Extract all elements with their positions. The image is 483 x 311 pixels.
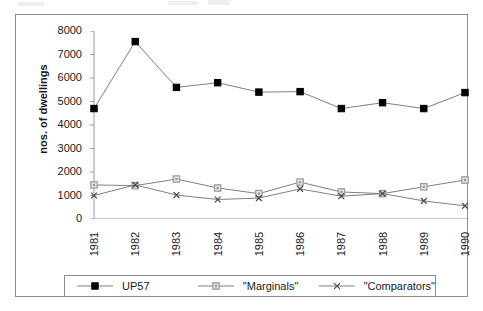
series-3 (91, 182, 468, 209)
legend-swatch-x-icon (317, 280, 357, 292)
x-tick-label: 1982 (129, 222, 141, 266)
data-point-marker-core (175, 178, 177, 180)
series-line (94, 179, 465, 194)
x-tick-label: 1986 (294, 222, 306, 266)
y-tick-label: 7000 (48, 49, 82, 60)
legend-label: UP57 (122, 280, 150, 292)
series-line (94, 42, 465, 109)
legend-entry[interactable]: "Comparators" (307, 280, 435, 292)
y-tick-label: 8000 (48, 25, 82, 36)
figure-frame: nos. of dwellings 8000700060005000400030… (15, 14, 468, 297)
x-tick-label: 1990 (459, 222, 471, 266)
data-point-marker-core (93, 184, 95, 186)
x-tick-label: 1987 (335, 222, 347, 266)
y-tick-label: 6000 (48, 72, 82, 83)
chart-legend: UP57"Marginals""Comparators" (64, 275, 436, 297)
x-tick-label: 1984 (212, 222, 224, 266)
legend-entry[interactable]: "Marginals" (186, 280, 307, 292)
plot-area (86, 31, 471, 219)
scan-artifact (168, 1, 198, 5)
legend-swatch-filled-square-icon (75, 280, 115, 292)
y-tick-label: 0 (48, 213, 82, 224)
y-tick-label: 5000 (48, 96, 82, 107)
y-axis-tick-labels: 800070006000500040003000200010000 (42, 31, 82, 219)
y-tick-label: 1000 (48, 190, 82, 201)
series-1 (91, 38, 468, 111)
data-point-marker-core (464, 179, 466, 181)
scan-artifact (208, 0, 230, 5)
x-tick-label: 1985 (253, 222, 265, 266)
data-point-marker (421, 105, 427, 111)
data-point-marker (214, 80, 220, 86)
data-point-marker-core (258, 193, 260, 195)
x-axis-tick-labels: 1981198219831984198519861987198819891990 (86, 220, 471, 264)
data-point-marker-core (423, 186, 425, 188)
x-tick-label: 1989 (418, 222, 430, 266)
data-point-marker-core (215, 285, 217, 287)
data-point-marker-core (299, 181, 301, 183)
legend-label: "Marginals" (243, 280, 299, 292)
legend-entry[interactable]: UP57 (65, 280, 186, 292)
scan-artifact (18, 2, 44, 6)
data-point-marker (173, 84, 179, 90)
x-tick-label: 1981 (88, 222, 100, 266)
data-point-marker (379, 99, 385, 105)
x-tick-label: 1983 (170, 222, 182, 266)
data-point-marker (297, 88, 303, 94)
data-point-marker (462, 89, 468, 95)
legend-swatch-open-square-icon (196, 280, 236, 292)
line-chart-svg (86, 31, 471, 219)
data-point-marker-core (340, 191, 342, 193)
y-tick-label: 4000 (48, 119, 82, 130)
data-point-marker (92, 283, 98, 289)
y-tick-label: 3000 (48, 143, 82, 154)
data-point-marker (91, 105, 97, 111)
data-point-marker-core (217, 187, 219, 189)
legend-label: "Comparators" (364, 280, 435, 292)
data-point-marker (256, 89, 262, 95)
data-point-marker (338, 105, 344, 111)
data-point-marker (132, 38, 138, 44)
y-tick-label: 2000 (48, 166, 82, 177)
x-tick-label: 1988 (377, 222, 389, 266)
chart-page: nos. of dwellings 8000700060005000400030… (0, 0, 483, 311)
